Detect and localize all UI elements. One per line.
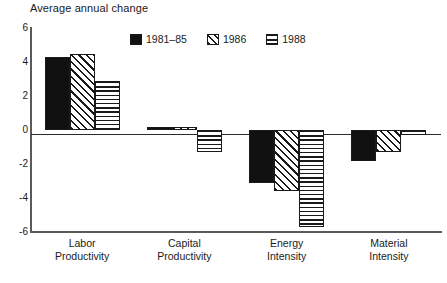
x-axis-category-label-line: Labor [27, 237, 137, 250]
bar [147, 127, 172, 130]
figure-container: Average annual change 6420-2-4-6 1981–85… [0, 0, 447, 283]
legend-item: 1986 [207, 34, 246, 45]
chart-legend: 1981–8519861988 [130, 34, 306, 45]
x-axis-category-label-line: Intensity [334, 250, 444, 263]
diagonal-hatch-swatch [207, 34, 219, 45]
bar [274, 130, 299, 191]
y-axis-tick-label: 0 [2, 125, 28, 135]
y-axis-tick-label: 2 [2, 91, 28, 101]
bar [249, 130, 274, 183]
legend-label: 1988 [282, 34, 305, 45]
bar [70, 54, 95, 131]
chart-title: Average annual change [30, 2, 148, 14]
solid-black-swatch [130, 34, 142, 45]
y-axis-tick-label: 6 [2, 23, 28, 33]
bar [172, 127, 197, 130]
bar [376, 130, 401, 152]
legend-label: 1981–85 [146, 34, 187, 45]
y-axis-tick-label: -6 [2, 227, 28, 237]
legend-label: 1986 [223, 34, 246, 45]
x-axis-category-label: CapitalProductivity [129, 237, 239, 262]
y-axis-tick-label: -4 [2, 193, 28, 203]
x-axis-category-labels: LaborProductivityCapitalProductivityEner… [30, 237, 441, 273]
y-axis-tick-label: 4 [2, 57, 28, 67]
legend-item: 1981–85 [130, 34, 187, 45]
x-axis-category-label: MaterialIntensity [334, 237, 444, 262]
bar [351, 130, 376, 161]
bar [45, 57, 70, 130]
x-axis-category-label-line: Material [334, 237, 444, 250]
bar [401, 130, 426, 135]
x-axis-category-label-line: Energy [232, 237, 342, 250]
bar [197, 130, 222, 152]
legend-item: 1988 [266, 34, 305, 45]
x-axis-category-label: LaborProductivity [27, 237, 137, 262]
bar [299, 130, 324, 227]
x-axis-category-label-line: Intensity [232, 250, 342, 263]
x-axis-category-label-line: Productivity [129, 250, 239, 263]
y-axis-tick-label: -2 [2, 159, 28, 169]
x-axis-category-label: EnergyIntensity [232, 237, 342, 262]
x-axis-category-label-line: Productivity [27, 250, 137, 263]
y-axis-tick-labels: 6420-2-4-6 [0, 0, 28, 283]
bars-layer [31, 28, 440, 232]
bar [95, 81, 120, 130]
horizontal-lines-swatch [266, 34, 278, 45]
x-axis-category-label-line: Capital [129, 237, 239, 250]
